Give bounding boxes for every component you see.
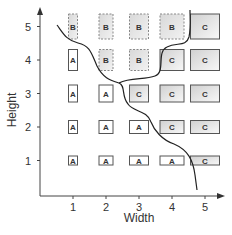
cell-c: C (191, 121, 220, 134)
cell-b: B (160, 14, 184, 39)
cell-a: A (130, 121, 149, 134)
y-axis-label: Height (5, 92, 19, 127)
svg-text:C: C (202, 56, 208, 65)
x-axis-label: Width (124, 211, 155, 225)
svg-text:B: B (70, 23, 76, 32)
cell-c: C (191, 156, 220, 166)
cell-a: A (99, 85, 113, 102)
svg-text:B: B (136, 56, 142, 65)
cell-c: C (191, 50, 220, 71)
cell-a: A (69, 85, 78, 102)
cell-a: A (99, 121, 113, 134)
svg-text:B: B (103, 23, 109, 32)
classification-diagram: BBBBCABBCCAACCCAAACCAAAAC 1234512345 Wid… (0, 0, 232, 235)
cell-grid: BBBBCABBCCAACCCAAACCAAAAC (69, 14, 220, 166)
cell-b: B (69, 14, 78, 39)
cell-b: B (99, 50, 113, 71)
cell-a: A (69, 121, 78, 134)
svg-text:C: C (202, 123, 208, 132)
cell-a: A (69, 50, 78, 71)
svg-text:C: C (202, 23, 208, 32)
y-tick-label: 2 (25, 121, 31, 133)
svg-text:C: C (136, 90, 142, 99)
svg-text:A: A (103, 123, 109, 132)
x-tick-label: 4 (169, 201, 175, 213)
svg-text:B: B (136, 23, 142, 32)
y-tick-label: 5 (25, 21, 31, 33)
x-tick-label: 2 (103, 201, 109, 213)
y-axis-arrow-icon (37, 7, 43, 15)
x-tick-label: 1 (70, 201, 76, 213)
svg-text:A: A (169, 157, 175, 166)
cell-a: A (69, 156, 78, 166)
svg-text:A: A (70, 56, 76, 65)
cell-b: B (130, 14, 149, 39)
svg-text:A: A (70, 90, 76, 99)
svg-text:C: C (169, 90, 175, 99)
cell-c: C (191, 14, 220, 39)
cell-a: A (99, 156, 113, 166)
y-tick-label: 4 (25, 54, 31, 66)
svg-text:A: A (103, 157, 109, 166)
svg-text:B: B (169, 23, 175, 32)
svg-text:A: A (136, 157, 142, 166)
y-tick-label: 1 (25, 155, 31, 167)
svg-text:C: C (169, 56, 175, 65)
y-tick-label: 3 (25, 88, 31, 100)
svg-text:A: A (70, 157, 76, 166)
cell-b: B (99, 14, 113, 39)
x-axis-arrow-icon (217, 193, 225, 199)
cell-b: B (130, 50, 149, 71)
svg-text:A: A (70, 123, 76, 132)
svg-text:A: A (136, 123, 142, 132)
svg-text:C: C (202, 157, 208, 166)
svg-text:A: A (103, 90, 109, 99)
cell-a: A (130, 156, 149, 166)
cell-c: C (160, 121, 184, 134)
svg-text:C: C (202, 90, 208, 99)
cell-c: C (160, 85, 184, 102)
cell-c: C (191, 85, 220, 102)
cell-c: C (130, 85, 149, 102)
cell-a: A (160, 156, 184, 166)
svg-text:B: B (103, 56, 109, 65)
cell-c: C (160, 50, 184, 71)
x-tick-label: 5 (202, 201, 208, 213)
svg-text:C: C (169, 123, 175, 132)
